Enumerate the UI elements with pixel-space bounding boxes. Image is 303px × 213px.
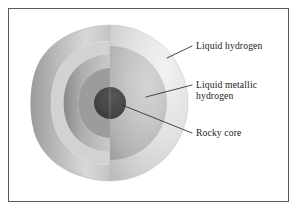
callout-labels: Liquid hydrogen Liquid metallic hydrogen… bbox=[196, 40, 263, 138]
label-liquid-metallic-hydrogen-line2: hydrogen bbox=[196, 90, 233, 101]
figure-root: Liquid hydrogen Liquid metallic hydrogen… bbox=[0, 0, 303, 213]
label-liquid-hydrogen: Liquid hydrogen bbox=[196, 40, 263, 51]
label-rocky-core: Rocky core bbox=[196, 127, 241, 138]
leader-line-liquid-hydrogen bbox=[167, 46, 192, 58]
label-liquid-metallic-hydrogen-line1: Liquid metallic bbox=[196, 79, 257, 90]
cutaway-diagram: Liquid hydrogen Liquid metallic hydrogen… bbox=[0, 0, 303, 213]
